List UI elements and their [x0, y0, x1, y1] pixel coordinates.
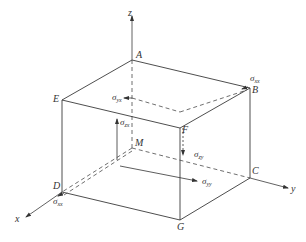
sigma-subscript: yx	[116, 97, 121, 103]
sigma-subscript: zy	[198, 154, 203, 160]
edge-B-F	[180, 88, 250, 128]
visible-edges	[62, 60, 250, 220]
hidden-edges	[62, 60, 250, 195]
edge-M-D	[62, 148, 132, 192]
z-axis-label: z	[128, 8, 132, 18]
edge-M-C	[132, 148, 250, 178]
sigma-subscript: xx	[254, 78, 259, 84]
inner-top-dashed	[132, 98, 180, 112]
edge-D-G	[62, 192, 180, 220]
vertex-B-label: B	[252, 85, 258, 95]
sigma-zy-label: σzy	[194, 150, 203, 160]
sigma-xx-label-B: σxx	[250, 74, 260, 84]
y-axis	[250, 178, 288, 188]
sigma-subscript: yy	[206, 181, 211, 187]
sigma-yx-label: σyx	[112, 93, 122, 103]
sigma-xx-label-D: σxx	[53, 197, 63, 207]
sigma-xx-B-arrow	[242, 87, 248, 89]
sigma-yy-label: σyy	[202, 177, 212, 187]
sigma-zx-label: σzx	[120, 118, 129, 128]
sigma-subscript: zx	[124, 122, 129, 128]
vertex-F-label: F	[182, 125, 188, 135]
vertex-M-label: M	[135, 138, 143, 148]
sigma-yy-arrow	[120, 166, 197, 181]
stress-arrows	[58, 87, 248, 196]
x-axis-label: x	[15, 214, 19, 224]
coordinate-axes	[26, 16, 288, 217]
stress-element-diagram	[0, 0, 306, 242]
inner-bottom-dashed	[64, 151, 132, 195]
y-axis-label: y	[291, 184, 295, 194]
vertex-G-label: G	[177, 222, 184, 232]
vertex-D-label: D	[53, 181, 60, 191]
vertex-A-label: A	[136, 50, 142, 60]
edge-A-B	[132, 60, 250, 88]
edge-G-C	[180, 178, 250, 220]
vertex-C-label: C	[252, 166, 259, 176]
vertex-E-label: E	[53, 94, 59, 104]
sigma-subscript: xx	[57, 201, 62, 207]
